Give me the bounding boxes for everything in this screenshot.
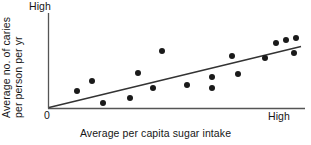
scatter-plot-figure: Average no. of caries per person per yr … [0,0,311,145]
data-point [229,53,235,59]
x-axis-title: Average per capita sugar intake [0,127,311,139]
data-point [159,48,165,54]
data-point [127,95,133,101]
plot-canvas [0,0,311,145]
data-point [89,78,95,84]
data-point [235,71,241,77]
data-point [273,40,279,46]
data-points-group [74,35,299,106]
origin-tick-label: 0 [44,110,50,121]
data-point [209,85,215,91]
data-point [150,85,156,91]
y-axis-title: Average no. of caries per person per yr [0,0,28,120]
data-point [283,37,289,43]
data-point [100,100,106,106]
data-point [262,55,268,61]
y-axis-title-line-1: Average no. of caries [1,17,12,118]
y-axis-title-line-2: per person per yr [13,36,24,118]
data-point [209,74,215,80]
data-point [291,50,297,56]
data-point [135,70,141,76]
data-point [184,82,190,88]
data-point [74,88,80,94]
y-axis-max-label: High [29,1,51,12]
x-axis-max-label: High [268,111,290,122]
data-point [293,35,299,41]
